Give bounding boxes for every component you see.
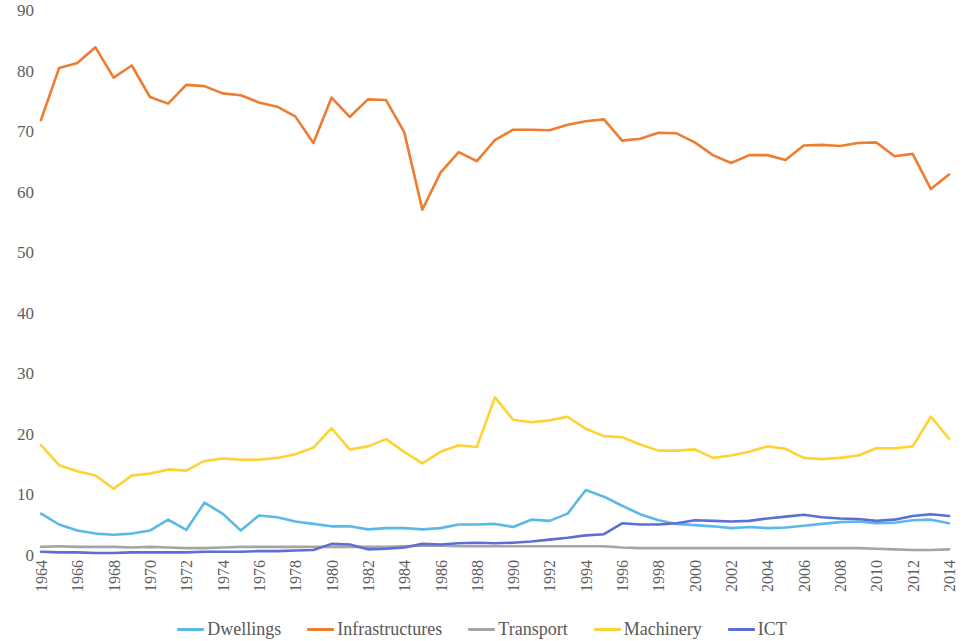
y-axis-tick-label: 10: [0, 486, 34, 503]
x-axis-tick-label: 1988: [468, 560, 488, 616]
x-axis-tick-label: 2004: [758, 560, 778, 616]
legend-swatch-icon: [307, 628, 334, 631]
legend-label: Infrastructures: [337, 619, 442, 639]
x-axis-tick-label: 2006: [795, 560, 815, 616]
legend-item-transport[interactable]: Transport: [468, 619, 567, 639]
legend-item-infrastructures[interactable]: Infrastructures: [307, 619, 442, 639]
x-axis-tick-label: 1980: [323, 560, 343, 616]
legend-swatch-icon: [177, 628, 204, 631]
series-line-infrastructures: [41, 47, 949, 209]
x-axis-tick-label: 1968: [105, 560, 125, 616]
legend-swatch-icon: [594, 628, 621, 631]
x-axis-tick-label: 1976: [250, 560, 270, 616]
y-axis-tick-label: 50: [0, 244, 34, 261]
x-axis-tick-label: 1978: [286, 560, 306, 616]
y-axis-tick-label: 80: [0, 63, 34, 80]
line-chart: 9080706050403020100 19641966196819701972…: [0, 0, 964, 641]
plot-area: [41, 11, 949, 556]
chart-legend: DwellingsInfrastructuresTransportMachine…: [0, 617, 964, 641]
x-axis-tick-label: 2002: [722, 560, 742, 616]
x-axis-tick-label: 2000: [686, 560, 706, 616]
x-axis-tick-label: 1972: [177, 560, 197, 616]
x-axis-tick-label: 1966: [68, 560, 88, 616]
series-line-dwellings: [41, 490, 949, 535]
x-axis-tick-label: 1964: [32, 560, 52, 616]
x-axis-tick-label: 1986: [432, 560, 452, 616]
x-axis-tick-label: 1992: [540, 560, 560, 616]
x-axis-tick-label: 2012: [904, 560, 924, 616]
y-axis-tick-label: 90: [0, 2, 34, 19]
x-axis-tick-label: 1994: [577, 560, 597, 616]
series-line-transport: [41, 546, 949, 550]
y-axis-tick-label: 30: [0, 365, 34, 382]
plot-svg: [41, 11, 949, 556]
x-axis-tick-label: 1998: [649, 560, 669, 616]
y-axis-tick-label: 70: [0, 123, 34, 140]
legend-swatch-icon: [728, 628, 755, 631]
x-axis-tick-label: 1996: [613, 560, 633, 616]
legend-item-dwellings[interactable]: Dwellings: [177, 619, 281, 639]
x-axis: 1964196619681970197219741976197819801982…: [41, 560, 949, 616]
x-axis-tick-label: 1990: [504, 560, 524, 616]
y-axis-tick-label: 0: [0, 547, 34, 564]
legend-label: Machinery: [624, 619, 702, 639]
y-axis: 9080706050403020100: [0, 0, 34, 641]
series-line-machinery: [41, 397, 949, 488]
y-axis-tick-label: 20: [0, 426, 34, 443]
x-axis-tick-label: 1984: [395, 560, 415, 616]
y-axis-tick-label: 60: [0, 184, 34, 201]
x-axis-tick-label: 1970: [141, 560, 161, 616]
legend-item-machinery[interactable]: Machinery: [594, 619, 702, 639]
legend-label: Dwellings: [207, 619, 281, 639]
x-axis-tick-label: 2010: [867, 560, 887, 616]
legend-label: ICT: [758, 619, 787, 639]
legend-label: Transport: [498, 619, 567, 639]
y-axis-tick-label: 40: [0, 305, 34, 322]
x-axis-tick-label: 1982: [359, 560, 379, 616]
x-axis-tick-label: 2008: [831, 560, 851, 616]
legend-item-ict[interactable]: ICT: [728, 619, 787, 639]
legend-swatch-icon: [468, 628, 495, 631]
x-axis-tick-label: 2014: [940, 560, 960, 616]
x-axis-tick-label: 1974: [214, 560, 234, 616]
